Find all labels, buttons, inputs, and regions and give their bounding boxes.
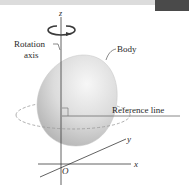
reference-line-label: Reference line [112,105,164,115]
origin-label: O [62,166,69,176]
header-box [155,0,189,11]
rotation-axis-label-line1: Rotation [14,39,45,49]
x-axis-label: x [133,159,138,169]
header-strip [0,0,155,5]
body-leader [106,49,116,60]
rotation-axis-label-line2: axis [24,50,39,60]
rigid-body-rotation-diagram: z Rotation axis Body Reference line y x … [0,0,189,185]
body-shape [37,55,117,146]
y-axis-label: y [126,134,131,144]
z-axis-label: z [58,9,63,18]
rotation-arrow-icon [48,26,75,36]
body-label: Body [117,44,137,54]
rotation-axis-leader [53,44,60,50]
